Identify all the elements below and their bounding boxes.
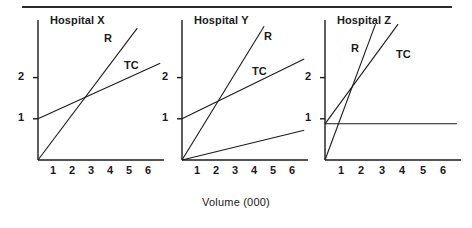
x-tick-label-1: 1: [194, 164, 200, 176]
series-label-r: R: [351, 42, 359, 54]
x-tick-label-2: 2: [358, 164, 364, 176]
series-label-tc: TC: [396, 48, 411, 60]
series-line-tc: [182, 59, 304, 119]
x-tick-label-1: 1: [338, 164, 344, 176]
y-tick-label-2: 2: [18, 70, 24, 82]
x-tick-label-5: 5: [126, 164, 132, 176]
series-label-tc: TC: [252, 65, 267, 77]
plot-area-hospital-x: [16, 12, 166, 182]
y-tick-label-1: 1: [18, 111, 24, 123]
series-label-r: R: [264, 30, 272, 42]
plot-area-hospital-z: [303, 12, 465, 182]
x-tick-label-6: 6: [145, 164, 151, 176]
series-line-tc: [38, 63, 160, 119]
x-tick-label-4: 4: [399, 164, 405, 176]
x-tick-label-2: 2: [69, 164, 75, 176]
series-line-r: [38, 28, 137, 160]
figure: Hospital X 2 1 R TC 1 2 3 4 5 6 Hospital…: [0, 0, 472, 228]
series-label-r: R: [104, 32, 112, 44]
y-tick-label-2: 2: [162, 70, 168, 82]
x-tick-label-5: 5: [270, 164, 276, 176]
x-tick-label-6: 6: [440, 164, 446, 176]
y-tick-label-2: 2: [305, 70, 311, 82]
x-tick-label-5: 5: [420, 164, 426, 176]
series-line-r: [182, 26, 264, 160]
x-tick-label-4: 4: [251, 164, 257, 176]
plot-area-hospital-y: [160, 12, 310, 182]
x-tick-label-3: 3: [379, 164, 385, 176]
series-line-vc: [182, 130, 304, 160]
y-tick-label-1: 1: [305, 111, 311, 123]
series-line-tc: [325, 24, 398, 124]
x-tick-label-3: 3: [232, 164, 238, 176]
top-rule: [22, 6, 452, 8]
chart-panel-hospital-y: Hospital Y 2 1 R TC 1 2 3 4 5 6: [160, 12, 310, 182]
chart-panel-hospital-z: Hospital Z 2 1 R TC 1 2 3 4 5 6: [303, 12, 465, 182]
y-tick-label-1: 1: [162, 111, 168, 123]
series-label-tc: TC: [124, 59, 139, 71]
x-tick-label-4: 4: [107, 164, 113, 176]
x-tick-label-2: 2: [213, 164, 219, 176]
x-tick-label-3: 3: [88, 164, 94, 176]
x-tick-label-6: 6: [289, 164, 295, 176]
x-axis-label: Volume (000): [0, 196, 472, 208]
chart-panel-hospital-x: Hospital X 2 1 R TC 1 2 3 4 5 6: [16, 12, 166, 182]
x-tick-label-1: 1: [50, 164, 56, 176]
